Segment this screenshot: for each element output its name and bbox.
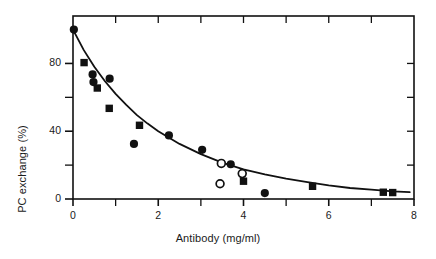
data-point-filled-square <box>309 183 316 190</box>
data-point-filled-circle <box>165 131 173 139</box>
data-point-open-circle <box>216 180 224 188</box>
data-point-filled-circle <box>130 140 138 148</box>
y-tick-label: 0 <box>31 192 61 204</box>
data-point-filled-square <box>380 189 387 196</box>
y-tick-label: 80 <box>31 56 61 68</box>
data-point-open-circle <box>217 160 225 168</box>
y-tick-label: 40 <box>31 124 61 136</box>
data-point-filled-square <box>240 178 247 185</box>
x-tick-label: 8 <box>402 209 426 221</box>
data-point-filled-circle <box>227 160 235 168</box>
data-point-filled-square <box>136 122 143 129</box>
x-tick-label: 6 <box>317 209 341 221</box>
fit-curve <box>73 30 410 193</box>
x-tick-label: 4 <box>232 209 256 221</box>
data-point-filled-circle <box>198 146 206 154</box>
data-point-filled-square <box>106 105 113 112</box>
data-point-filled-circle <box>106 75 114 83</box>
data-point-open-circle <box>238 170 246 178</box>
data-point-filled-circle <box>89 70 97 78</box>
x-tick-label: 0 <box>61 209 85 221</box>
x-tick-label: 2 <box>146 209 170 221</box>
data-point-filled-circle <box>70 25 78 33</box>
data-point-filled-square <box>389 189 396 196</box>
data-point-filled-square <box>94 84 101 91</box>
data-point-filled-circle <box>261 189 269 197</box>
data-point-filled-square <box>80 59 87 66</box>
chart-figure: PC exchange (%) Antibody (mg/ml) 0246804… <box>0 0 436 259</box>
